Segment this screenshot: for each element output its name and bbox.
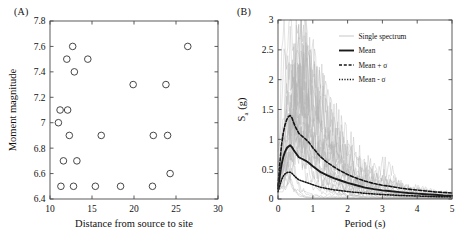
x-tick-label: 2 xyxy=(345,204,350,214)
scatter-point xyxy=(130,81,137,88)
scatter-point xyxy=(74,158,81,165)
x-tick-label: 15 xyxy=(87,204,97,214)
scatter-point xyxy=(167,170,174,177)
y-tick-label: 6.4 xyxy=(34,194,46,204)
y-tick-label: 6.6 xyxy=(34,169,46,179)
y-tick-label: 7.8 xyxy=(34,16,46,26)
scatter-point xyxy=(69,43,76,50)
x-tick-label: 10 xyxy=(45,204,55,214)
scatter-point xyxy=(64,107,71,114)
scatter-point xyxy=(117,183,124,190)
x-tick-label: 30 xyxy=(213,204,223,214)
y-tick-label: 1 xyxy=(269,135,274,145)
x-tick-label: 0 xyxy=(276,204,281,214)
scatter-point xyxy=(58,183,65,190)
panel-b-plot: 01234500.511.522.53Period (s)Sa (g)Singl… xyxy=(231,0,462,238)
scatter-point xyxy=(70,183,77,190)
scatter-point xyxy=(92,183,99,190)
panel-a-xlabel: Distance from source to site xyxy=(75,218,193,229)
y-tick-label: 1.5 xyxy=(262,105,274,115)
y-tick-label: 2 xyxy=(269,75,274,85)
legend-label: Single spectrum xyxy=(359,32,407,41)
y-tick-label: 3 xyxy=(269,15,274,25)
panel-b-spectra: (B) 01234500.511.522.53Period (s)Sa (g)S… xyxy=(231,0,462,238)
x-tick-label: 20 xyxy=(129,204,139,214)
panel-a-plot: 10152025306.46.66.877.27.47.67.8Distance… xyxy=(0,0,231,238)
panel-b-xlabel: Period (s) xyxy=(344,218,386,230)
scatter-point xyxy=(150,132,157,139)
scatter-point xyxy=(57,107,64,114)
y-tick-label: 6.8 xyxy=(34,144,46,154)
x-tick-label: 4 xyxy=(415,204,420,214)
scatter-point xyxy=(163,81,170,88)
legend-label: Mean - σ xyxy=(359,75,386,84)
panel-a-scatter: (A) 10152025306.46.66.877.27.47.67.8Dist… xyxy=(0,0,231,238)
figure-container: (A) 10152025306.46.66.877.27.47.67.8Dist… xyxy=(0,0,462,238)
legend-label: Mean xyxy=(359,46,376,55)
scatter-point xyxy=(98,132,105,139)
y-tick-label: 0 xyxy=(269,194,274,204)
y-tick-label: 0.5 xyxy=(262,165,274,175)
scatter-point xyxy=(164,132,171,139)
scatter-point xyxy=(184,43,191,50)
panel-a-ylabel: Moment magnitude xyxy=(7,68,18,151)
scatter-point xyxy=(149,183,156,190)
scatter-point xyxy=(60,158,67,165)
x-tick-label: 5 xyxy=(450,204,455,214)
scatter-point xyxy=(71,69,78,76)
panel-b-ylabel: Sa (g) xyxy=(236,97,250,121)
y-tick-label: 7.2 xyxy=(34,93,46,103)
y-tick-label: 7 xyxy=(41,118,46,128)
panel-b-legend: Single spectrumMeanMean + σMean - σ xyxy=(339,32,407,84)
legend-label: Mean + σ xyxy=(359,61,388,70)
x-tick-label: 25 xyxy=(171,204,181,214)
scatter-point xyxy=(85,56,92,63)
scatter-point xyxy=(66,132,73,139)
y-tick-label: 7.4 xyxy=(34,67,46,77)
scatter-point xyxy=(64,56,71,63)
y-tick-label: 2.5 xyxy=(262,45,274,55)
scatter-point xyxy=(55,119,62,126)
x-tick-label: 1 xyxy=(310,204,315,214)
y-tick-label: 7.6 xyxy=(34,42,46,52)
panel-a-axes-frame xyxy=(50,21,218,199)
x-tick-label: 3 xyxy=(380,204,385,214)
